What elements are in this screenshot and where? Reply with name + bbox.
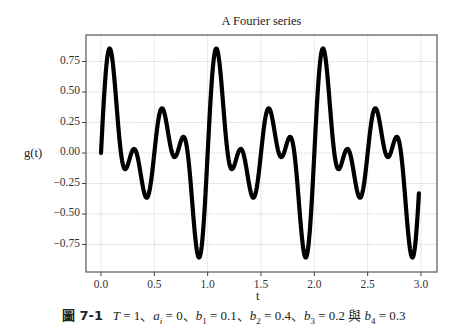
y-tick-label: 0.25 — [60, 115, 80, 127]
x-tick-label: 0.0 — [86, 278, 116, 290]
caption-parameters: T = 1、ai = 0、b1 = 0.1、b2 = 0.4、b3 = 0.2 … — [106, 308, 405, 323]
y-tick-label: −0.50 — [53, 206, 80, 218]
caption-param: b2 = 0.4 — [250, 308, 291, 323]
figure-label: 圖 7-1 — [62, 308, 103, 323]
caption-param: b4 = 0.3 — [364, 308, 405, 323]
x-tick-label: 2.5 — [353, 278, 383, 290]
caption-param: b3 = 0.2 — [304, 308, 345, 323]
x-tick-label: 1.0 — [193, 278, 223, 290]
x-tick-label: 0.5 — [139, 278, 169, 290]
y-tick-label: 0.75 — [60, 54, 80, 66]
x-axis-label: t — [256, 289, 259, 304]
x-tick-label: 3.0 — [406, 278, 436, 290]
figure-caption: 圖 7-1 T = 1、ai = 0、b1 = 0.1、b2 = 0.4、b3 … — [62, 305, 406, 326]
caption-param: T = 1 — [113, 308, 141, 323]
y-tick-label: 0.50 — [60, 84, 80, 96]
x-tick-label: 1.5 — [246, 278, 276, 290]
axis-ticks — [82, 62, 421, 277]
fourier-series-plot — [0, 0, 463, 329]
caption-param: ai = 0 — [153, 308, 182, 323]
y-tick-label: 0.00 — [60, 145, 80, 157]
y-tick-label: −0.25 — [53, 176, 80, 188]
caption-param: b1 = 0.1 — [196, 308, 237, 323]
y-axis-label: g(t) — [24, 146, 42, 161]
x-tick-label: 2.0 — [299, 278, 329, 290]
y-tick-label: −0.75 — [53, 237, 80, 249]
